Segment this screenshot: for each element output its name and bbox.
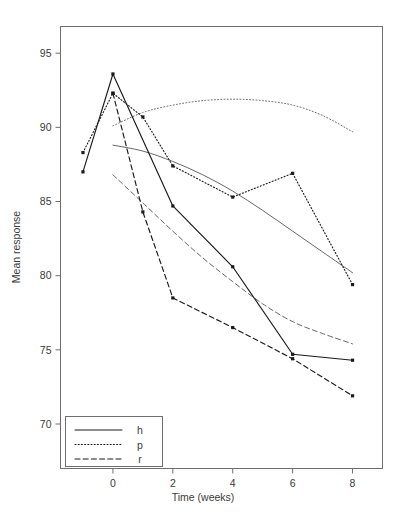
data-point-h: [351, 359, 354, 362]
data-point-p: [291, 172, 294, 175]
series-line-h: [83, 74, 353, 360]
data-point-h: [171, 204, 174, 207]
legend-label-p: p: [137, 439, 143, 451]
x-axis-ticks: 02468: [110, 469, 356, 489]
data-point-p: [351, 283, 354, 286]
fitted-curves-layer: [113, 99, 353, 344]
y-tick-label: 85: [40, 195, 52, 207]
x-tick-label: 2: [170, 477, 176, 489]
legend-label-r: r: [138, 453, 142, 465]
data-point-p: [171, 164, 174, 167]
y-tick-label: 80: [40, 269, 52, 281]
x-tick-label: 4: [230, 477, 236, 489]
y-axis-ticks: 707580859095: [40, 47, 61, 430]
data-point-p: [81, 151, 84, 154]
plot-frame: [61, 27, 383, 469]
data-point-h: [291, 353, 294, 356]
data-point-h: [231, 265, 234, 268]
data-point-p: [231, 195, 234, 198]
series-line-r: [113, 93, 353, 396]
x-tick-label: 6: [290, 477, 296, 489]
x-tick-label: 8: [350, 477, 356, 489]
legend-label-h: h: [137, 424, 143, 436]
data-point-r: [111, 92, 114, 95]
data-point-p: [141, 115, 144, 118]
x-tick-label: 0: [110, 477, 116, 489]
line-chart: 707580859095 02468 Time (weeks) Mean res…: [0, 0, 407, 524]
y-tick-label: 75: [40, 344, 52, 356]
data-point-h: [81, 170, 84, 173]
data-point-r: [291, 357, 294, 360]
series-line-p: [83, 93, 353, 284]
chart-figure: 707580859095 02468 Time (weeks) Mean res…: [0, 0, 407, 524]
data-point-r: [171, 296, 174, 299]
data-point-r: [141, 210, 144, 213]
x-axis-label: Time (weeks): [172, 491, 235, 503]
y-axis-label: Mean response: [10, 211, 22, 284]
y-tick-label: 90: [40, 121, 52, 133]
y-tick-label: 70: [40, 418, 52, 430]
fitted-curve-r-fit: [113, 175, 353, 344]
chart-legend[interactable]: hpr: [66, 417, 163, 467]
data-point-r: [231, 326, 234, 329]
data-point-r: [351, 394, 354, 397]
data-point-h: [111, 72, 114, 75]
y-tick-label: 95: [40, 47, 52, 59]
